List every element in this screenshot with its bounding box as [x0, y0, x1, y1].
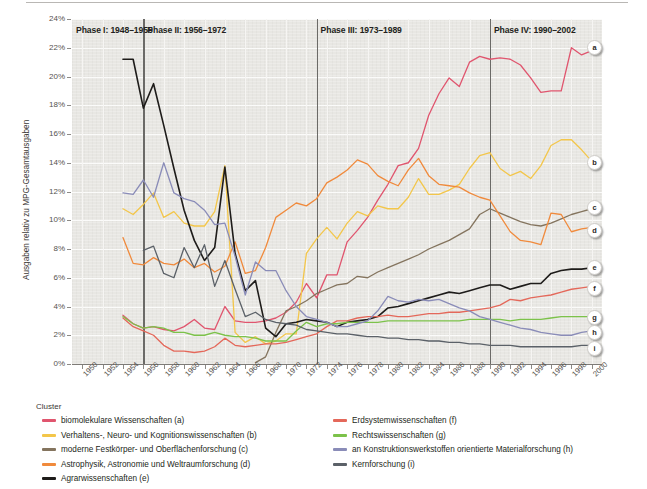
legend-item[interactable]: moderne Festkörper- und Oberflächenforsc…	[42, 445, 248, 454]
y-axis-title: Ausgaben relativ zu MPG-Gesamtausgaben	[22, 119, 31, 279]
series-line-a	[123, 48, 592, 331]
y-axis-tick-mark	[67, 163, 71, 164]
x-axis-tick-mark	[470, 365, 471, 369]
series-line-e	[123, 59, 592, 336]
y-axis-tick-mark	[67, 192, 71, 193]
legend-item-label: Kernforschung (i)	[352, 460, 415, 469]
plot-area	[72, 19, 602, 364]
legend-item-label: Verhaltens-, Neuro- und Kognitionswissen…	[61, 431, 257, 440]
y-axis-tick-mark	[67, 105, 71, 106]
top-divider-rule	[26, 2, 628, 3]
series-end-marker-d: d	[587, 223, 602, 238]
y-axis-tick-label: 24%	[49, 14, 65, 23]
series-line-b	[123, 140, 592, 344]
y-axis-tick-mark	[67, 48, 71, 49]
x-axis-tick-mark	[164, 365, 165, 369]
y-axis-tick-label: 6%	[53, 273, 65, 282]
legend-item-label: Agrarwissenschaften (e)	[61, 474, 149, 483]
y-axis-tick-label: 14%	[49, 158, 65, 167]
series-end-marker-g: g	[587, 310, 602, 325]
x-axis-tick-mark	[429, 365, 430, 369]
legend-color-swatch	[42, 477, 56, 480]
x-axis-tick-mark	[531, 365, 532, 369]
y-axis-tick-label: 16%	[49, 129, 65, 138]
y-axis-tick-label: 2%	[53, 330, 65, 339]
y-axis-tick-label: 22%	[49, 43, 65, 52]
y-axis-tick-label: 18%	[49, 100, 65, 109]
legend-color-swatch	[42, 463, 56, 466]
legend-color-swatch	[333, 419, 347, 422]
legend-item-label: Rechtswissenschaften (g)	[352, 431, 446, 440]
series-end-marker-b: b	[587, 155, 602, 170]
y-axis-tick-label: 20%	[49, 72, 65, 81]
legend-color-swatch	[42, 448, 56, 451]
series-lines	[72, 19, 602, 364]
phase-label-phase3: Phase III: 1973–1989	[321, 25, 402, 35]
y-axis-tick-mark	[67, 249, 71, 250]
legend-item[interactable]: Kernforschung (i)	[333, 460, 415, 469]
phase-label-phase2: Phase II: 1956–1972	[147, 25, 226, 35]
y-axis-tick-label: 12%	[49, 187, 65, 196]
legend-color-swatch	[333, 434, 347, 437]
y-axis-tick-mark	[67, 19, 71, 20]
y-axis-tick-label: 8%	[53, 244, 65, 253]
y-axis-tick-mark	[67, 220, 71, 221]
legend-color-swatch	[42, 419, 56, 422]
phase-label-phase4: Phase IV: 1990–2002	[494, 25, 576, 35]
y-axis-tick-label: 0%	[53, 359, 65, 368]
y-axis-tick-mark	[67, 335, 71, 336]
legend-color-swatch	[42, 434, 56, 437]
y-axis-tick-mark	[67, 364, 71, 365]
legend-item-label: Erdsystemwissenschaften (f)	[352, 416, 457, 425]
legend-item-label: an Konstruktionswerkstoffen orientierte …	[352, 445, 573, 454]
legend-item[interactable]: Verhaltens-, Neuro- und Kognitionswissen…	[42, 431, 257, 440]
legend-title: Cluster	[36, 402, 61, 411]
legend-item[interactable]: biomolekulare Wissenschaften (a)	[42, 416, 184, 425]
legend-item[interactable]: Agrarwissenschaften (e)	[42, 474, 149, 483]
chart-figure: Ausgaben relativ zu MPG-Gesamtausgaben P…	[0, 0, 647, 489]
x-axis-tick-mark	[368, 365, 369, 369]
series-line-h	[123, 163, 592, 336]
y-axis-tick-mark	[67, 307, 71, 308]
y-axis-tick-label: 10%	[49, 215, 65, 224]
legend-item-label: biomolekulare Wissenschaften (a)	[61, 416, 184, 425]
y-axis-tick-label: 4%	[53, 302, 65, 311]
legend-item-label: moderne Festkörper- und Oberflächenforsc…	[61, 445, 248, 454]
phase-label-phase1: Phase I: 1948–1955	[76, 25, 153, 35]
y-axis-tick-mark	[67, 134, 71, 135]
legend-color-swatch	[333, 448, 347, 451]
y-axis-tick-mark	[67, 77, 71, 78]
legend-item[interactable]: Astrophysik, Astronomie und Weltraumfors…	[42, 460, 250, 469]
series-line-i	[143, 245, 591, 347]
legend-item[interactable]: Erdsystemwissenschaften (f)	[333, 416, 457, 425]
series-line-d	[123, 158, 592, 273]
legend-item-label: Astrophysik, Astronomie und Weltraumfors…	[61, 460, 250, 469]
y-axis-tick-mark	[67, 278, 71, 279]
x-axis-tick-mark	[103, 365, 104, 369]
legend-item[interactable]: an Konstruktionswerkstoffen orientierte …	[333, 445, 573, 454]
legend-color-swatch	[333, 463, 347, 466]
legend-item[interactable]: Rechtswissenschaften (g)	[333, 431, 446, 440]
series-end-marker-i: i	[587, 341, 602, 356]
x-axis-tick-mark	[266, 365, 267, 369]
x-axis-tick-mark	[205, 365, 206, 369]
series-end-marker-f: f	[587, 281, 602, 296]
